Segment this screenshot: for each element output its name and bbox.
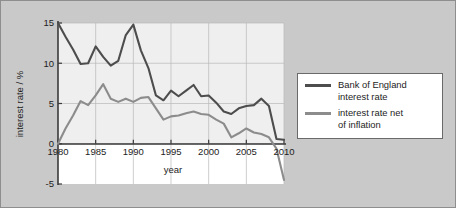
x-tick-label-1995: 1995 xyxy=(160,146,181,157)
y-tick-label-5: 5 xyxy=(49,98,54,109)
x-tick-label-2000: 2000 xyxy=(198,146,219,157)
x-tick-label-2005: 2005 xyxy=(236,146,257,157)
legend-item-interest-rate-net-of-inflation: interest rate net of inflation xyxy=(298,102,442,130)
legend-label-net: interest rate net of inflation xyxy=(338,107,403,130)
x-tick-label-2010: 2010 xyxy=(273,146,294,157)
chart-legend: Bank of England interest rate interest r… xyxy=(297,73,443,139)
y-tick-label-10: 10 xyxy=(43,58,54,69)
legend-swatch-icon-net xyxy=(305,112,331,115)
y-tick-label-15: 15 xyxy=(43,17,54,28)
legend-item-bank-of-england-interest-rate: Bank of England interest rate xyxy=(298,74,442,102)
legend-swatch-icon-boe xyxy=(305,84,331,87)
x-tick-label-1990: 1990 xyxy=(123,146,144,157)
legend-label-boe: Bank of England interest rate xyxy=(338,79,407,102)
y-tick-label--5: -5 xyxy=(46,178,54,189)
x-tick-label-1980: 1980 xyxy=(47,146,68,157)
y-axis-tick-labels: -5051015 xyxy=(43,17,54,189)
x-tick-label-1985: 1985 xyxy=(85,146,106,157)
figure-frame: -5051015 1980198519901995200020052010 in… xyxy=(0,0,456,208)
y-axis-title: interest rate / % xyxy=(14,70,25,137)
x-axis-title: year xyxy=(164,164,182,175)
